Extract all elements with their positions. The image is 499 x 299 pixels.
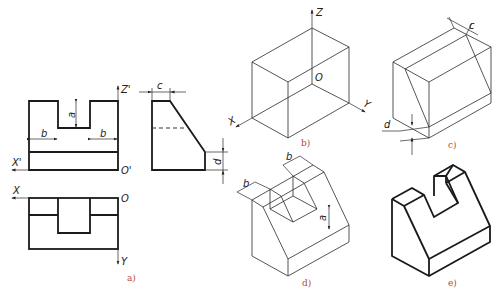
label-z-prime: Z' xyxy=(120,84,131,95)
label-b-d-right: b xyxy=(286,151,292,162)
label-y-b: Y xyxy=(362,98,374,111)
label-c-side: c xyxy=(157,80,163,91)
label-d-side: d xyxy=(212,158,223,165)
iso-solid-e xyxy=(392,165,490,276)
label-c-c: c xyxy=(469,20,475,31)
caption-c: c) xyxy=(448,140,457,150)
label-x-top: X xyxy=(12,185,21,196)
top-view xyxy=(12,198,118,264)
label-d-c: d xyxy=(384,119,391,130)
label-z-b: Z xyxy=(315,7,324,18)
side-view xyxy=(139,88,228,184)
caption-e: e) xyxy=(448,278,457,288)
iso-box-b xyxy=(236,10,365,138)
label-b-left: b xyxy=(41,128,47,139)
label-a-d: a xyxy=(317,215,328,221)
caption-d: d) xyxy=(302,278,311,288)
technical-drawing: Z' X' O' a b b c d X O Y a) xyxy=(0,0,499,299)
iso-cut-d xyxy=(237,156,349,276)
caption-a: a) xyxy=(127,273,136,283)
label-x-prime: X' xyxy=(11,157,22,168)
label-o-top: O xyxy=(121,193,129,204)
label-y-top: Y xyxy=(121,256,128,267)
label-o-b: O xyxy=(315,72,323,83)
x-axis xyxy=(236,118,252,127)
label-b-right: b xyxy=(100,128,106,139)
label-a-front: a xyxy=(66,112,77,118)
label-x-b: X xyxy=(225,114,238,128)
iso-box-c xyxy=(382,17,491,155)
caption-b: b) xyxy=(301,138,310,148)
label-o-prime: O' xyxy=(121,165,132,176)
label-b-d-left: b xyxy=(243,178,249,189)
